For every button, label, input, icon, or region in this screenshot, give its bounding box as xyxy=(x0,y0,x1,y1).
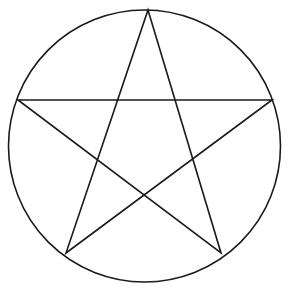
circumscribed-circle-icon xyxy=(9,10,281,282)
pentagram-star-icon xyxy=(18,10,272,253)
pentagram-figure xyxy=(0,0,290,296)
image-canvas xyxy=(0,0,290,296)
